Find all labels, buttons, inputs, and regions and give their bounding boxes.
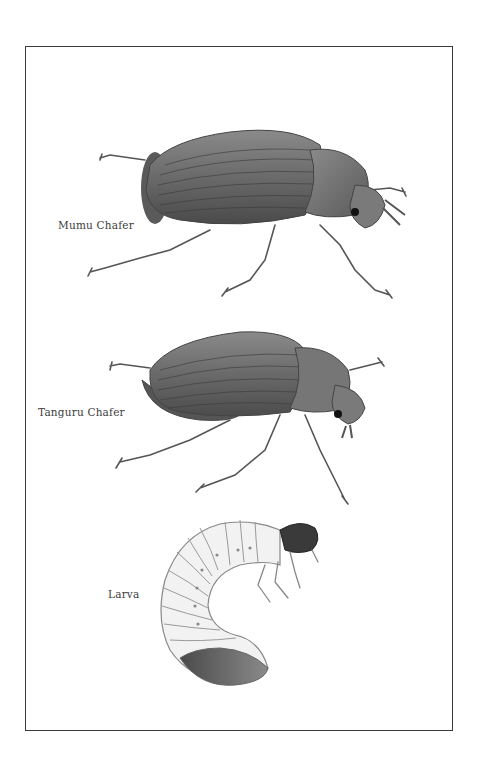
mumu-chafer-illustration: [80, 120, 420, 310]
tanguru-chafer-illustration: [80, 320, 400, 510]
larva-label: Larva: [108, 588, 139, 600]
larva-illustration: [140, 510, 340, 695]
